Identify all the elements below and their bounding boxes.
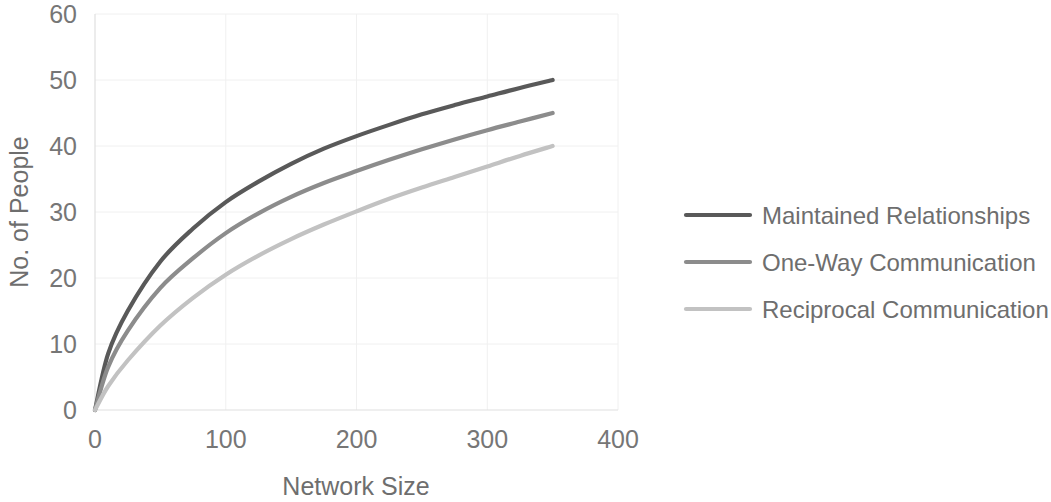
- y-tick-label: 60: [49, 0, 77, 28]
- series-lines: [95, 80, 553, 410]
- x-tick-label: 0: [88, 425, 102, 453]
- line-chart: 0102030405060 0100200300400 Maintained R…: [0, 0, 1051, 502]
- x-axis-tick-labels: 0100200300400: [88, 425, 639, 453]
- chart-screenshot: 0102030405060 0100200300400 Maintained R…: [0, 0, 1051, 502]
- y-tick-label: 10: [49, 330, 77, 358]
- legend-label: One-Way Communication: [762, 249, 1036, 276]
- y-tick-label: 40: [49, 132, 77, 160]
- legend-label: Maintained Relationships: [762, 202, 1030, 229]
- x-axis-title: Network Size: [282, 472, 429, 500]
- y-tick-label: 20: [49, 264, 77, 292]
- legend: Maintained RelationshipsOne-Way Communic…: [686, 202, 1049, 323]
- y-tick-label: 30: [49, 198, 77, 226]
- series-line: [95, 113, 553, 410]
- y-tick-label: 50: [49, 66, 77, 94]
- x-tick-label: 200: [336, 425, 378, 453]
- x-tick-label: 100: [205, 425, 247, 453]
- x-tick-label: 300: [466, 425, 508, 453]
- y-axis-tick-labels: 0102030405060: [49, 0, 77, 424]
- legend-label: Reciprocal Communication: [762, 296, 1049, 323]
- y-axis-title: No. of People: [5, 136, 33, 288]
- y-tick-label: 0: [63, 396, 77, 424]
- chart-canvas: 0102030405060 0100200300400 Maintained R…: [0, 0, 1051, 502]
- x-tick-label: 400: [597, 425, 639, 453]
